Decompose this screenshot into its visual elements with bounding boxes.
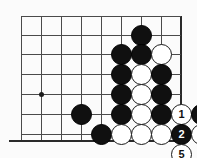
stone-black-a [131, 25, 152, 46]
go-board-diagram: 12345 [0, 0, 197, 158]
stone-white-d [131, 104, 152, 125]
stone-white-a [151, 44, 172, 65]
stone-black-g [151, 84, 172, 105]
stone-black-j [151, 104, 172, 125]
grid-line-horizontal-1 [21, 35, 181, 36]
stone-white-c [131, 84, 152, 105]
move-1: 1 [171, 104, 192, 125]
move-1-label: 1 [178, 109, 184, 120]
stone-black-k [91, 124, 112, 145]
move-2-label: 2 [178, 129, 184, 140]
stone-black-f [111, 84, 132, 105]
stone-black-i [111, 104, 132, 125]
stone-black-b [111, 44, 132, 65]
stone-white-f [131, 124, 152, 145]
stone-white-e [111, 124, 132, 145]
move-2: 2 [171, 124, 192, 145]
stone-black-c [131, 44, 152, 65]
stone-white-b [131, 64, 152, 85]
move-5: 5 [171, 144, 192, 158]
move-3: 3 [191, 124, 197, 145]
stone-black-e [151, 64, 172, 85]
move-5-label: 5 [178, 149, 184, 158]
star-point-left [39, 92, 44, 97]
stone-black-d [111, 64, 132, 85]
grid-line-horizontal-0 [21, 16, 181, 17]
stone-black-h [71, 104, 92, 125]
move-4: 4 [191, 104, 197, 125]
stone-white-g [151, 124, 172, 145]
